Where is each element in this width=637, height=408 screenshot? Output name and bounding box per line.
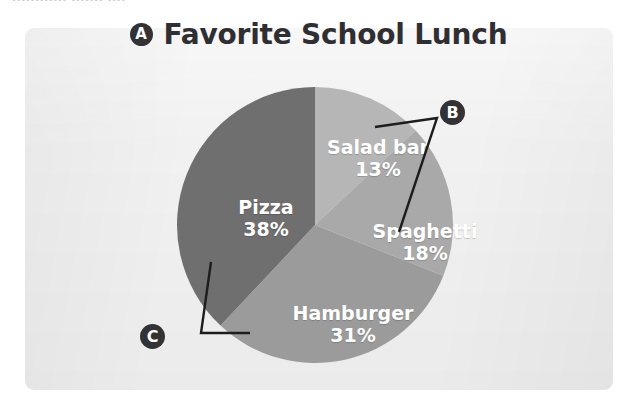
chart-title-row: A Favorite School Lunch: [0, 18, 637, 51]
slice-label-salad-bar-value: 13%: [313, 158, 443, 180]
slice-label-hamburger-value: 31%: [273, 324, 433, 346]
chart-title: Favorite School Lunch: [164, 18, 508, 51]
slice-label-spaghetti-value: 18%: [355, 242, 495, 264]
slice-label-spaghetti: Spaghetti 18%: [355, 220, 495, 264]
slice-label-pizza: Pizza 38%: [211, 196, 321, 240]
callout-marker-a: A: [130, 23, 153, 46]
slice-label-hamburger-name: Hamburger: [273, 302, 433, 324]
slice-label-pizza-name: Pizza: [211, 196, 321, 218]
callout-marker-b: B: [440, 100, 465, 125]
callout-marker-c: C: [140, 324, 165, 349]
slice-label-spaghetti-name: Spaghetti: [355, 220, 495, 242]
pie-chart: Salad bar 13% Spaghetti 18% Hamburger 31…: [25, 28, 613, 390]
slice-label-salad-bar-name: Salad bar: [313, 136, 443, 158]
clipped-header-text: ............ ....... ....: [12, 0, 272, 5]
slice-label-salad-bar: Salad bar 13%: [313, 136, 443, 180]
slice-label-hamburger: Hamburger 31%: [273, 302, 433, 346]
slice-label-pizza-value: 38%: [211, 218, 321, 240]
